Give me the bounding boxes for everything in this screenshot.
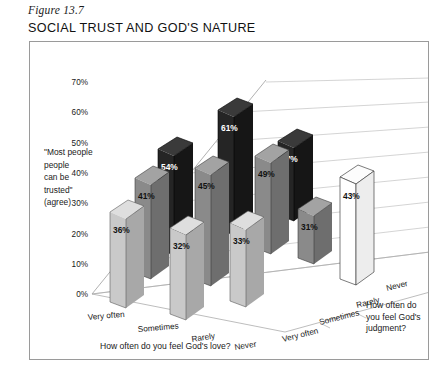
z-cat-very-often: Very often xyxy=(281,326,319,344)
chart-title: SOCIAL TRUST AND GOD'S NATURE xyxy=(28,21,256,35)
bar-33: 33% xyxy=(230,211,264,307)
x-axis-title: How often do you feel God's love? xyxy=(100,341,231,351)
x-cat-sometimes: Sometimes xyxy=(137,321,179,334)
y-axis-title-line-5: (agree) xyxy=(44,196,106,209)
bar-43: 43% xyxy=(340,165,374,285)
y-tick-0: 0% xyxy=(76,290,88,299)
bar-value-41: 41% xyxy=(138,191,155,201)
y-axis-title-line-4: trusted" xyxy=(44,184,106,197)
bar-32: 32% xyxy=(170,216,204,320)
z-axis-title: How often do you feel God's judgment? xyxy=(366,300,432,335)
bar-36: 36% xyxy=(110,200,144,308)
bar-value-61: 61% xyxy=(221,123,238,133)
y-tick-10: 10% xyxy=(72,260,88,269)
bar-value-32: 32% xyxy=(173,241,190,251)
z-cat-sometimes: Sometimes xyxy=(318,308,360,327)
y-tick-60: 60% xyxy=(72,108,88,117)
x-cat-very-often: Very often xyxy=(87,310,125,322)
y-tick-20: 20% xyxy=(72,230,88,239)
y-axis-title-line-2: people xyxy=(44,159,106,172)
y-tick-70: 70% xyxy=(72,78,88,87)
y-axis-title-line-3: can be xyxy=(44,171,106,184)
bar-value-43: 43% xyxy=(343,191,360,201)
bar-31: 31% xyxy=(298,197,332,264)
y-axis-title-line-1: "Most people xyxy=(44,146,106,159)
bar-value-36: 36% xyxy=(113,225,130,235)
bar-value-45: 45% xyxy=(198,181,215,191)
bar-value-33: 33% xyxy=(233,236,250,246)
figure-number: Figure 13.7 xyxy=(28,4,84,16)
x-cat-never: Never xyxy=(234,340,257,352)
bar-value-31: 31% xyxy=(301,222,318,232)
bar-value-49: 49% xyxy=(258,169,275,179)
y-axis-title: "Most people people can be trusted" (agr… xyxy=(44,146,106,209)
z-cat-never: Never xyxy=(385,279,409,293)
